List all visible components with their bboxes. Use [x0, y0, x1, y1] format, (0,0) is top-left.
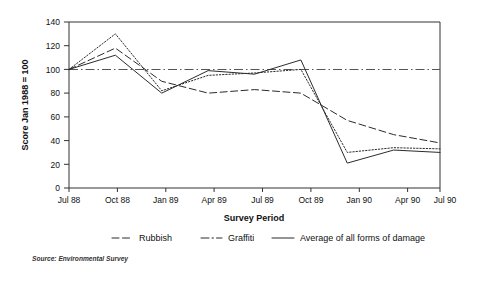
x-tick-labels: Jul 88 Oct 88 Jan 89 Apr 89 Jul 89 Oct 8… [58, 195, 457, 205]
y-tick-labels: 140 120 100 80 60 40 20 0 [46, 17, 60, 193]
legend-label-average: Average of all forms of damage [300, 233, 425, 243]
y-tick-label: 80 [51, 88, 61, 98]
y-axis-title: Score Jan 1988 = 100 [20, 60, 30, 151]
x-tick-label: Jul 88 [58, 195, 81, 205]
y-axis-title-text: Score Jan 1988 = 100 [20, 60, 30, 151]
x-tick-label: Oct 88 [105, 195, 130, 205]
x-tick-label: Apr 90 [395, 195, 420, 205]
x-tick-label: Jul 89 [251, 195, 274, 205]
chart-figure: 140 120 100 80 60 40 20 0 Score Jan 1988… [0, 0, 486, 281]
line-chart-canvas: 140 120 100 80 60 40 20 0 Score Jan 1988… [0, 0, 486, 281]
x-tick-label: Jul 90 [434, 195, 457, 205]
x-axis-title-text: Survey Period [224, 213, 285, 223]
y-tick-label: 140 [46, 17, 60, 27]
series-line-average [69, 55, 440, 163]
y-tick-label: 0 [55, 183, 60, 193]
series-line-graffiti [69, 34, 440, 153]
source-note: Source: Environmental Survey [32, 255, 128, 263]
x-axis-ticks [69, 188, 440, 192]
legend-label-graffiti: Graffiti [228, 233, 254, 243]
y-tick-label: 20 [51, 160, 61, 170]
legend-label-rubbish: Rubbish [139, 233, 172, 243]
chart-legend: Rubbish Graffiti Average of all forms of… [112, 233, 425, 243]
x-tick-label: Apr 89 [202, 195, 227, 205]
y-axis-ticks [64, 22, 69, 188]
plot-frame [69, 22, 440, 188]
y-tick-label: 100 [46, 65, 60, 75]
y-tick-label: 60 [51, 112, 61, 122]
y-tick-label: 120 [46, 41, 60, 51]
y-tick-label: 40 [51, 136, 61, 146]
x-tick-label: Oct 89 [298, 195, 323, 205]
x-tick-label: Jan 90 [347, 195, 373, 205]
x-tick-label: Jan 89 [153, 195, 179, 205]
